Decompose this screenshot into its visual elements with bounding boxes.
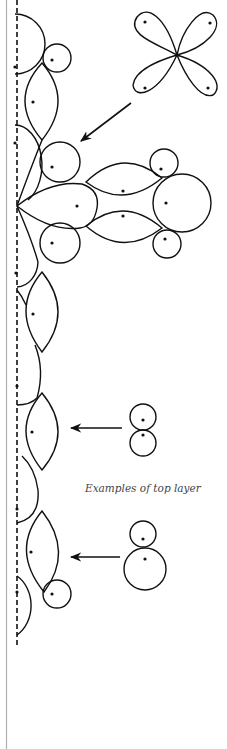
arrow-flower-to-cluster — [81, 103, 131, 141]
arc-2 — [15, 125, 42, 200]
arc-6 — [17, 456, 38, 523]
arc-3 — [17, 262, 38, 287]
snowman-equal — [130, 404, 156, 456]
caption-examples-of-top-layer: Examples of top layer — [84, 482, 202, 494]
axis-dots — [13, 65, 18, 593]
circle-upper-mid — [40, 142, 80, 182]
concave-arc-lower — [17, 206, 38, 262]
arc-4 — [17, 290, 26, 305]
arc-5 — [17, 345, 41, 405]
branch-small-circle-bottom — [153, 230, 181, 258]
concave-arc-upper — [17, 140, 42, 206]
circle-lower-mid — [40, 223, 80, 263]
lens-2 — [26, 272, 58, 352]
central-petal — [17, 183, 97, 228]
snowman-unequal — [124, 521, 166, 590]
four-lobe-flower — [133, 12, 217, 95]
small-circle-top — [43, 44, 71, 72]
branch-big-circle — [153, 174, 211, 232]
branch-small-circle-top — [150, 149, 178, 177]
small-circle-bottom — [43, 580, 71, 608]
diagram-canvas: Examples of top layer — [0, 0, 227, 749]
lens-1 — [25, 63, 58, 140]
half-disc-bottom — [17, 576, 31, 635]
